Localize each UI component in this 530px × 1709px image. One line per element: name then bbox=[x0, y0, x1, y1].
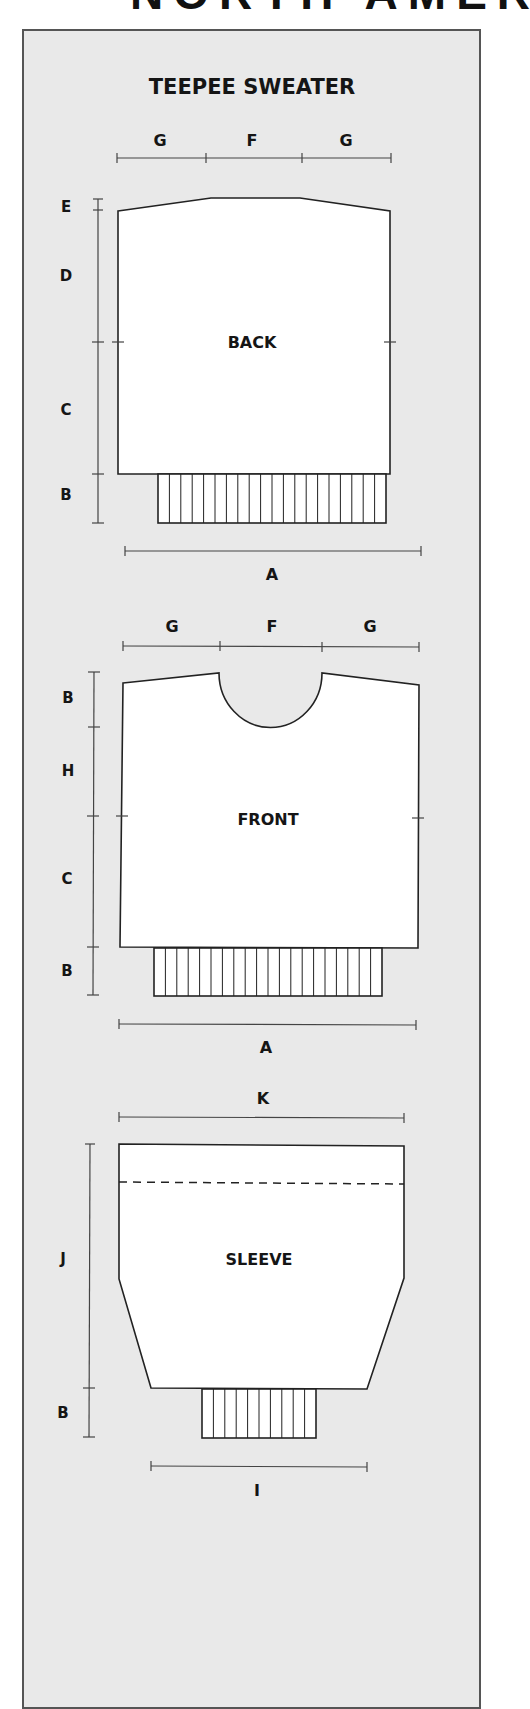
back-piece-group: G F G E D C B BACK bbox=[60, 131, 421, 584]
sleeve-label: SLEEVE bbox=[226, 1250, 293, 1269]
front-side-dimension-line bbox=[87, 672, 100, 995]
sleeve-top-dimension-line bbox=[119, 1112, 404, 1123]
front-dim-b-bottom: B bbox=[61, 962, 72, 980]
back-dim-c: C bbox=[60, 401, 71, 419]
back-dim-g-right: G bbox=[339, 131, 352, 150]
sleeve-bottom-dimension-line bbox=[151, 1461, 367, 1472]
back-dim-f: F bbox=[247, 131, 258, 150]
front-dim-g-right: G bbox=[363, 617, 376, 636]
sleeve-dim-k: K bbox=[257, 1089, 270, 1108]
front-dim-f: F bbox=[267, 617, 278, 636]
front-dim-c: C bbox=[61, 870, 72, 888]
diagram-title: TEEPEE SWEATER bbox=[149, 75, 356, 99]
back-dim-b: B bbox=[60, 486, 71, 504]
front-dim-a: A bbox=[260, 1038, 273, 1057]
front-dim-b-top: B bbox=[62, 689, 73, 707]
front-piece-group: G F G B H C B FRONT bbox=[61, 617, 424, 1057]
sleeve-side-dimension-line bbox=[83, 1144, 95, 1437]
sleeve-dim-j: J bbox=[59, 1250, 66, 1268]
sleeve-dim-b: B bbox=[57, 1404, 68, 1422]
sleeve-piece-group: K J B SLEEVE I bbox=[57, 1089, 404, 1500]
back-top-dimension-line bbox=[117, 153, 391, 163]
back-dim-e: E bbox=[61, 198, 71, 216]
front-dim-h: H bbox=[62, 762, 75, 780]
back-dim-a: A bbox=[266, 565, 279, 584]
back-dim-g-left: G bbox=[153, 131, 166, 150]
back-dim-d: D bbox=[60, 267, 72, 285]
front-dim-g-left: G bbox=[165, 617, 178, 636]
front-label: FRONT bbox=[237, 810, 298, 829]
sleeve-dim-i: I bbox=[254, 1481, 260, 1500]
back-bottom-dimension-line bbox=[125, 546, 421, 556]
back-label: BACK bbox=[228, 333, 277, 352]
front-top-dimension-line bbox=[123, 641, 419, 652]
back-side-dimension-line bbox=[92, 199, 104, 523]
front-bottom-dimension-line bbox=[119, 1019, 416, 1030]
